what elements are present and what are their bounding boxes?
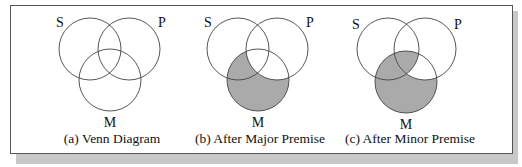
caption-c: (c) After Minor Premise (345, 131, 475, 146)
venn-figure: S P M (a) Venn Diagram S P M (b) After M… (0, 0, 522, 167)
caption-a: (a) Venn Diagram (64, 131, 161, 146)
label-s: S (204, 15, 212, 30)
label-m: M (252, 115, 265, 130)
label-s: S (352, 17, 360, 32)
label-p: P (158, 15, 166, 30)
label-s: S (56, 15, 64, 30)
caption-b: (b) After Major Premise (195, 131, 325, 146)
label-p: P (306, 15, 314, 30)
label-m: M (104, 115, 117, 130)
label-p: P (454, 17, 462, 32)
label-m: M (400, 117, 413, 132)
